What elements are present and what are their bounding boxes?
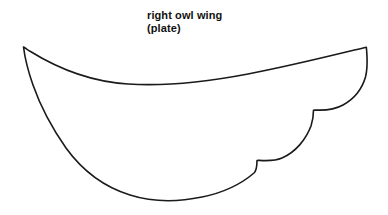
owl-wing-outline-path — [24, 47, 368, 201]
template-page: right owl wing (plate) — [0, 0, 388, 215]
owl-wing-shape — [0, 0, 388, 215]
